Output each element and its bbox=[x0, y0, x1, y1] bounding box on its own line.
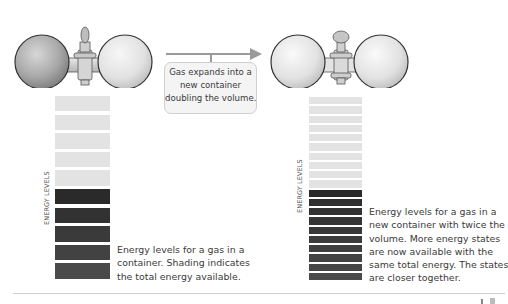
caption-line: Energy levels for a gas in a bbox=[117, 243, 250, 256]
energy-level-empty bbox=[309, 171, 362, 178]
energy-level-occupied bbox=[309, 264, 362, 271]
energy-level-empty bbox=[309, 125, 362, 132]
energy-level-empty bbox=[309, 180, 362, 187]
energy-level-empty bbox=[55, 152, 110, 167]
energy-level-empty bbox=[309, 97, 362, 104]
energy-level-occupied bbox=[55, 189, 110, 204]
energy-level-occupied bbox=[309, 190, 362, 197]
energy-level-occupied bbox=[309, 227, 362, 234]
caption-after: Energy levels for a gas in a new contain… bbox=[369, 205, 508, 285]
energy-level-empty bbox=[55, 115, 110, 130]
callout-line: Gas expands into a bbox=[165, 66, 256, 79]
energy-level-empty bbox=[309, 143, 362, 150]
caption-line: new container with twice the bbox=[369, 218, 508, 231]
caption-line: are now available with the bbox=[369, 245, 508, 258]
flask-before-expansion bbox=[12, 20, 157, 88]
caption-line: the total energy available. bbox=[117, 270, 250, 283]
page-corner-mark-icon bbox=[478, 297, 498, 304]
energy-level-occupied bbox=[55, 226, 110, 241]
expansion-callout: Gas expands into a new container doublin… bbox=[164, 62, 257, 114]
flask-after-expansion bbox=[268, 20, 413, 88]
energy-levels-after bbox=[309, 97, 362, 282]
energy-level-occupied bbox=[309, 254, 362, 261]
caption-line: container. Shading indicates bbox=[117, 256, 250, 269]
energy-level-occupied bbox=[55, 208, 110, 223]
energy-level-occupied bbox=[309, 273, 362, 280]
energy-levels-before bbox=[55, 96, 110, 282]
caption-line: volume. More energy states bbox=[369, 232, 508, 245]
energy-level-occupied bbox=[309, 208, 362, 215]
caption-line: are closer together. bbox=[369, 271, 508, 284]
bottom-divider bbox=[13, 293, 505, 294]
callout-line: new container bbox=[165, 79, 256, 92]
energy-level-empty bbox=[309, 153, 362, 160]
caption-before: Energy levels for a gas in a container. … bbox=[117, 243, 250, 283]
axis-label-energy-levels: ENERGY LEVELS bbox=[43, 171, 51, 225]
energy-level-occupied bbox=[309, 245, 362, 252]
energy-level-empty bbox=[309, 162, 362, 169]
energy-level-occupied bbox=[55, 263, 110, 278]
energy-level-occupied bbox=[309, 236, 362, 243]
energy-level-empty bbox=[309, 134, 362, 141]
energy-level-occupied bbox=[309, 217, 362, 224]
axis-label-energy-levels: ENERGY LEVELS bbox=[296, 159, 304, 213]
caption-line: Energy levels for a gas in a bbox=[369, 205, 508, 218]
energy-level-occupied bbox=[309, 199, 362, 206]
callout-line: doubling the volume. bbox=[165, 92, 256, 105]
energy-level-empty bbox=[55, 133, 110, 148]
energy-level-empty bbox=[55, 170, 110, 185]
energy-level-empty bbox=[309, 116, 362, 123]
energy-level-empty bbox=[309, 106, 362, 113]
arrow-head-icon bbox=[250, 48, 262, 60]
energy-level-occupied bbox=[55, 245, 110, 260]
caption-line: same total energy. The states bbox=[369, 258, 508, 271]
energy-level-empty bbox=[55, 96, 110, 111]
expansion-arrow bbox=[166, 53, 252, 55]
